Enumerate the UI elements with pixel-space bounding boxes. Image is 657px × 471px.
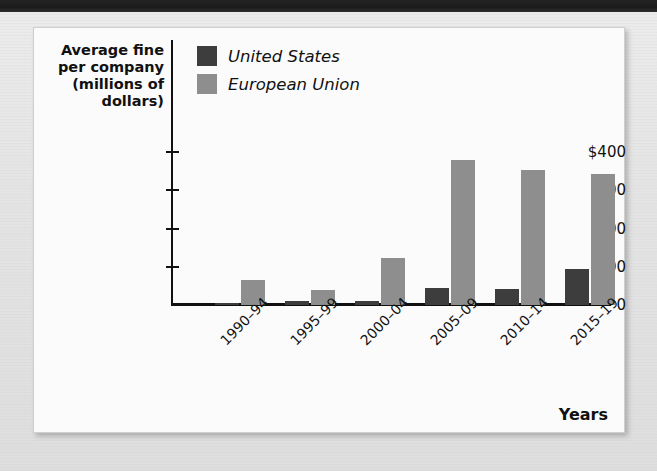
bar-us-2005-09 bbox=[425, 288, 449, 305]
bar-group-2005-09 bbox=[425, 40, 475, 305]
bar-us-1995-99 bbox=[285, 301, 309, 305]
bar-eu-2010-14 bbox=[521, 170, 545, 305]
bar-group-1990-94 bbox=[215, 40, 265, 305]
bar-eu-2015-19 bbox=[591, 174, 615, 305]
bar-us-2015-19 bbox=[565, 269, 589, 305]
x-axis-title: Years bbox=[559, 405, 608, 424]
page-top-black-band bbox=[0, 0, 657, 12]
bar-series-container bbox=[173, 40, 611, 305]
bar-group-1995-99 bbox=[285, 40, 335, 305]
plot-area: Average fine per company (millions of do… bbox=[34, 28, 626, 434]
bar-group-2015-19 bbox=[565, 40, 615, 305]
chart-panel: Average fine per company (millions of do… bbox=[33, 27, 625, 433]
bar-us-1990-94 bbox=[215, 303, 239, 305]
y-axis-title: Average fine per company (millions of do… bbox=[38, 42, 164, 110]
bar-us-2000-04 bbox=[355, 301, 379, 305]
bar-eu-2005-09 bbox=[451, 160, 475, 305]
bar-group-2000-04 bbox=[355, 40, 405, 305]
bar-us-2010-14 bbox=[495, 289, 519, 305]
bar-group-2010-14 bbox=[495, 40, 545, 305]
